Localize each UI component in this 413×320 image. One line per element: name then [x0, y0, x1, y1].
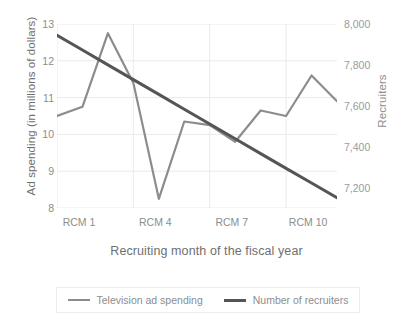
y-tick-label-left: 8 — [30, 203, 54, 214]
y-tick-label-right: 7,600 — [344, 101, 390, 112]
y-axis-left-ticks: 8910111213 — [26, 0, 54, 320]
legend-item-1[interactable]: Number of recruiters — [224, 294, 349, 306]
chart-canvas — [57, 24, 337, 208]
legend-item-0[interactable]: Television ad spending — [68, 294, 203, 306]
chart-legend: Television ad spendingNumber of recruite… — [56, 287, 360, 313]
y-tick-label-right: 7,800 — [344, 60, 390, 71]
y-tick-label-right: 7,200 — [344, 183, 390, 194]
legend-label: Television ad spending — [97, 294, 203, 306]
y-tick-label-left: 10 — [30, 129, 54, 140]
y-tick-label-left: 12 — [30, 56, 54, 67]
plot-area — [57, 24, 337, 208]
legend-swatch-icon — [68, 299, 90, 301]
x-tick-label: RCM 10 — [289, 216, 328, 228]
y-tick-label-right: 7,400 — [344, 142, 390, 153]
x-axis-title: Recruiting month of the fiscal year — [0, 244, 413, 258]
y-tick-label-right: 8,000 — [344, 19, 390, 30]
y-tick-label-left: 11 — [30, 93, 54, 104]
y-tick-label-left: 13 — [30, 19, 54, 30]
series-line-1 — [57, 35, 337, 198]
x-tick-label: RCM 4 — [139, 216, 172, 228]
x-tick-label: RCM 1 — [63, 216, 96, 228]
x-tick-label: RCM 7 — [215, 216, 248, 228]
y-tick-label-left: 9 — [30, 166, 54, 177]
y-axis-right-ticks: 7,2007,4007,6007,8008,000 — [344, 0, 390, 320]
chart-figure: Ad spending (in millions of dollars) Rec… — [0, 0, 413, 320]
legend-swatch-icon — [224, 299, 246, 302]
legend-label: Number of recruiters — [253, 294, 349, 306]
